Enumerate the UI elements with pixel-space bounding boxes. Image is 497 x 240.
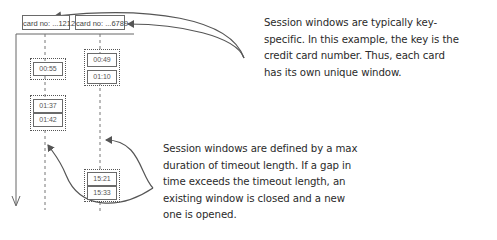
session-window: 00:55 <box>30 58 66 80</box>
key-label-card-1212: card no: ...1212 <box>22 15 70 30</box>
event-box: 01:10 <box>87 70 117 84</box>
session-window: 15:21 15:33 <box>84 169 120 202</box>
event-box: 00:49 <box>87 53 117 67</box>
event-box: 01:37 <box>33 99 63 113</box>
session-window-diagram: card no: ...1212 card no: ...6789 00:55 … <box>0 0 497 240</box>
key-label-card-6789: card no: ...6789 <box>75 15 125 30</box>
event-box: 01:42 <box>33 113 63 127</box>
timeout-note: Session windows are defined by a max dur… <box>163 141 413 224</box>
event-box: 00:55 <box>33 62 63 76</box>
event-box: 15:33 <box>87 186 117 200</box>
event-box: 15:21 <box>87 172 117 186</box>
session-window: 01:37 01:42 <box>30 95 66 131</box>
key-specific-note: Session windows are typically key- speci… <box>264 15 496 81</box>
arrow-to-card-6789 <box>128 24 244 58</box>
session-window: 00:49 01:10 <box>84 49 120 86</box>
